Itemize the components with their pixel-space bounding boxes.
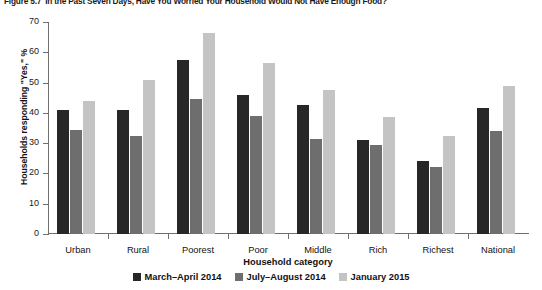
bar (143, 80, 155, 234)
bar-group: Urban (48, 22, 108, 234)
bar (70, 130, 82, 234)
x-axis-tick (288, 234, 289, 239)
x-axis-category-label: Rich (369, 245, 388, 255)
bar (383, 117, 395, 234)
y-axis-tick-label: 0 (34, 228, 39, 238)
y-axis-tick-label: 40 (29, 107, 39, 117)
y-axis-tick-label: 60 (29, 46, 39, 56)
bar-group: Poorest (168, 22, 228, 234)
bar (177, 60, 189, 234)
y-axis-tick-label: 70 (29, 16, 39, 26)
legend-item: March–April 2014 (133, 272, 222, 282)
bar (477, 108, 489, 234)
bar (503, 86, 515, 234)
bar-group: Richest (408, 22, 468, 234)
x-axis-category-label: Richest (422, 245, 453, 255)
bar (430, 167, 442, 234)
bar-group: Middle (288, 22, 348, 234)
legend-label: March–April 2014 (145, 272, 222, 282)
bar (417, 161, 429, 234)
bar (443, 136, 455, 234)
y-axis-tick-label: 50 (29, 77, 39, 87)
bar (310, 139, 322, 234)
y-axis-tick: 0 (43, 234, 48, 235)
bar (250, 116, 262, 234)
figure-title-text: In the Past Seven Days, Have You Worried… (45, 0, 387, 6)
x-axis-tick (408, 234, 409, 239)
x-axis-category-label: Poorest (182, 245, 214, 255)
bar (57, 110, 69, 234)
x-axis-tick (228, 234, 229, 239)
legend-label: July–August 2014 (247, 272, 326, 282)
x-axis-category-label: Middle (304, 245, 331, 255)
bar (237, 95, 249, 234)
y-axis-tick-label: 30 (29, 137, 39, 147)
legend-swatch-icon (133, 273, 141, 281)
x-axis-category-label: Urban (65, 245, 90, 255)
x-axis-category-label: National (481, 245, 515, 255)
legend-item: July–August 2014 (235, 272, 326, 282)
bar-group: Rural (108, 22, 168, 234)
bar (130, 136, 142, 234)
x-axis-tick (348, 234, 349, 239)
bar (83, 101, 95, 234)
x-axis-category-label: Poor (248, 245, 268, 255)
bar (323, 90, 335, 234)
y-axis-tick-label: 20 (29, 167, 39, 177)
x-axis-title: Household category (48, 257, 528, 267)
bar (117, 110, 129, 234)
legend-label: January 2015 (351, 272, 410, 282)
bar (263, 63, 275, 234)
bar (370, 145, 382, 234)
legend-swatch-icon (339, 273, 347, 281)
y-axis-tick-label: 10 (29, 198, 39, 208)
figure-number: Figure 5.7 (4, 0, 41, 6)
bar-group: Poor (228, 22, 288, 234)
bar-group: Rich (348, 22, 408, 234)
bar-group: National (468, 22, 528, 234)
legend-item: January 2015 (339, 272, 410, 282)
bar (357, 140, 369, 234)
plot-area: 010203040506070UrbanRuralPoorestPoorMidd… (48, 22, 528, 234)
bar (297, 105, 309, 234)
x-axis-tick (468, 234, 469, 239)
y-axis-title: Households responding "Yes," % (19, 7, 29, 227)
bar (203, 33, 215, 234)
bar (490, 131, 502, 234)
bar (190, 99, 202, 234)
figure-container: Figure 5.7In the Past Seven Days, Have Y… (0, 0, 542, 290)
chart-legend: March–April 2014July–August 2014January … (0, 272, 542, 282)
x-axis-tick (108, 234, 109, 239)
x-axis-category-label: Rural (127, 245, 149, 255)
figure-title: Figure 5.7In the Past Seven Days, Have Y… (4, 0, 540, 6)
legend-swatch-icon (235, 273, 243, 281)
x-axis-tick (168, 234, 169, 239)
